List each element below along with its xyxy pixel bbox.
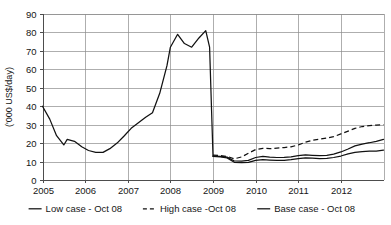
x-tick-label: 2007: [118, 185, 139, 196]
y-tick-label: 10: [26, 157, 37, 168]
line-chart: 0102030405060708090 20052006200720082009…: [0, 0, 391, 225]
y-tick-label: 90: [26, 9, 37, 20]
legend-item-high-case-oct-08: High case -Oct 08: [143, 203, 236, 214]
legend-label: High case -Oct 08: [160, 203, 236, 214]
legend-item-low-case-oct-08: Low case - Oct 08: [29, 203, 123, 214]
x-tick-label: 2012: [331, 185, 352, 196]
y-tick-label: 80: [26, 27, 37, 38]
chart-container: 0102030405060708090 20052006200720082009…: [0, 0, 391, 225]
x-tick-label: 2006: [75, 185, 96, 196]
y-tick-label: 70: [26, 46, 37, 57]
y-tick-label: 50: [26, 83, 37, 94]
series-line-historical: [43, 31, 214, 156]
series-layer: [43, 31, 384, 163]
y-tick-label: 60: [26, 64, 37, 75]
x-tick-label: 2009: [203, 185, 224, 196]
x-tick-label: 2008: [160, 185, 181, 196]
x-tick-label: 2005: [33, 185, 54, 196]
y-axis-label-text: ('000 US$/day): [4, 67, 14, 127]
x-tick-label: 2011: [288, 185, 308, 196]
y-tick-label: 30: [26, 120, 37, 131]
y-tick-label: 40: [26, 101, 37, 112]
x-axis-tick-labels: 20052006200720082009201020112012: [33, 185, 352, 196]
legend-item-base-case-oct-08: Base case - Oct 08: [257, 203, 355, 214]
legend-label: Base case - Oct 08: [274, 203, 355, 214]
y-axis-label: ('000 US$/day): [4, 67, 14, 127]
legend-label: Low case - Oct 08: [46, 203, 123, 214]
chart-legend: Low case - Oct 08High case -Oct 08Base c…: [29, 203, 355, 214]
y-tick-label: 20: [26, 138, 37, 149]
y-axis-tick-labels: 0102030405060708090: [26, 9, 37, 186]
x-tick-label: 2010: [246, 185, 267, 196]
